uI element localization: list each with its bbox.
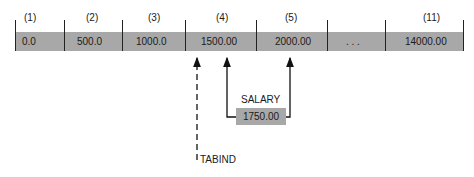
salary-right-arrow	[286, 58, 290, 117]
salary-label: SALARY	[241, 94, 280, 105]
salary-box: 1750.00	[236, 108, 286, 125]
salary-left-arrow	[227, 58, 236, 117]
arrows	[0, 0, 474, 177]
tabind-label: TABIND	[200, 154, 236, 165]
